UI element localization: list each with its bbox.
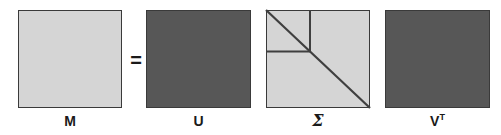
matrix-m-label-text: M (64, 113, 76, 129)
matrix-v-transpose (385, 10, 490, 108)
matrix-sigma-structure (266, 10, 370, 108)
equals-sign: = (128, 50, 144, 70)
matrix-sigma (266, 10, 370, 108)
matrix-u-fill (146, 10, 251, 108)
matrix-v-transpose-label: VT (385, 114, 490, 128)
sigma-diagonal-line (266, 10, 370, 108)
matrix-v-transpose-superscript: T (439, 112, 445, 122)
matrix-u-label: U (146, 114, 251, 128)
svd-diagram: M = U Σ VT (0, 0, 501, 135)
matrix-sigma-label: Σ (266, 113, 370, 129)
matrix-m-fill (18, 10, 122, 108)
matrix-m-label: M (18, 114, 122, 128)
matrix-m (18, 10, 122, 108)
equals-sign-text: = (130, 49, 142, 71)
matrix-sigma-label-text: Σ (312, 111, 323, 130)
matrix-u (146, 10, 251, 108)
matrix-v-transpose-fill (385, 10, 490, 108)
matrix-u-label-text: U (193, 113, 203, 129)
